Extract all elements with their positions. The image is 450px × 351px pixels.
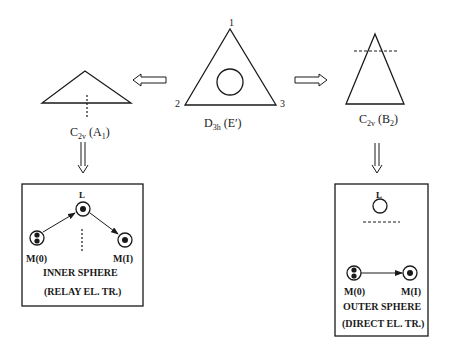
electron-transfer-diagram: 1 2 3 D3h (E′) C2v (A1) C2v (B2) bbox=[0, 0, 450, 351]
inner-sphere-title: INNER SPHERE bbox=[43, 267, 118, 278]
d3h-triangle-group: 1 2 3 D3h (E′) bbox=[175, 17, 285, 132]
right-down-arrow bbox=[372, 143, 382, 173]
outer-sphere-box: L M(0) M(I) OUTER SPHERE (DIRECT EL. TR.… bbox=[335, 184, 428, 336]
inner-donor-label: M(0) bbox=[26, 253, 47, 265]
c2v-a1-triangle bbox=[42, 71, 131, 103]
left-transform-arrow bbox=[133, 74, 166, 86]
vertex-label-2: 2 bbox=[175, 98, 180, 109]
vertex-label-1: 1 bbox=[229, 17, 234, 28]
outer-ligand-circle bbox=[373, 199, 387, 213]
vertex-label-3: 3 bbox=[280, 98, 285, 109]
ligand-to-acceptor-arrow bbox=[90, 213, 118, 234]
inner-sphere-subtitle: (RELAY EL. TR.) bbox=[44, 286, 121, 298]
c2v-b2-label: C2v (B2) bbox=[359, 112, 398, 128]
outer-sphere-subtitle: (DIRECT EL. TR.) bbox=[342, 318, 424, 330]
d3h-label: D3h (E′) bbox=[204, 116, 242, 132]
c2v-b2-triangle bbox=[346, 34, 404, 104]
left-down-arrow bbox=[78, 142, 88, 173]
inner-sphere-box: L M(0) M(I) INNER SPHERE (RELAY EL. TR.) bbox=[22, 184, 143, 306]
outer-acceptor-label: M(I) bbox=[401, 286, 421, 298]
right-transform-arrow bbox=[295, 74, 327, 86]
outer-sphere-title: OUTER SPHERE bbox=[343, 301, 421, 312]
inner-acceptor-label: M(I) bbox=[113, 253, 133, 265]
d3h-center-circle bbox=[217, 69, 243, 95]
c2v-b2-triangle-group: C2v (B2) bbox=[346, 34, 404, 128]
c2v-a1-triangle-group: C2v (A1) bbox=[42, 71, 131, 141]
donor-to-ligand-arrow bbox=[43, 213, 75, 232]
outer-donor-label: M(0) bbox=[344, 286, 365, 298]
c2v-a1-label: C2v (A1) bbox=[70, 125, 110, 141]
d3h-triangle bbox=[185, 29, 276, 105]
inner-ligand-label: L bbox=[79, 190, 85, 200]
